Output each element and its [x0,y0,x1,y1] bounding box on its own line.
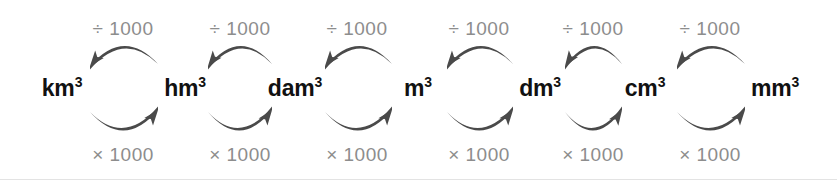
unit-label-m3: m3 [404,75,432,102]
divide-operation-label-5: ÷ 1000 [563,18,624,40]
multiply-operation-label-3: × 1000 [326,144,388,166]
unit-base: m [404,75,424,101]
multiply-operation-label-6: × 1000 [679,144,741,166]
multiply-arrow-hm3-to-dam3 [208,107,277,131]
unit-base: km [42,75,75,101]
unit-label-dm3: dm3 [519,75,561,102]
multiply-operation-label-5: × 1000 [562,144,624,166]
multiply-operation-label-4: × 1000 [448,144,510,166]
divide-operation-label-6: ÷ 1000 [680,18,741,40]
unit-base: mm [751,75,792,101]
unit-exponent: 3 [315,74,323,90]
unit-base: dam [268,75,315,101]
divide-arrow-hm3-to-km3 [85,46,158,69]
divide-arrow-mm3-to-cm3 [672,46,745,69]
divide-operation-label-3: ÷ 1000 [327,18,388,40]
multiply-arrow-km3-to-hm3 [90,107,163,131]
unit-label-mm3: mm3 [751,75,799,102]
unit-label-km3: km3 [42,75,82,102]
divide-operation-label-1: ÷ 1000 [93,18,154,40]
divide-arrow-dm3-to-m3 [442,46,513,69]
unit-label-dam3: dam3 [268,75,322,102]
divide-operation-label-2: ÷ 1000 [210,18,271,40]
divide-arrow-cm3-to-dm3 [560,46,622,69]
multiply-operation-label-2: × 1000 [209,144,271,166]
unit-conversion-diagram: km3hm3dam3m3dm3cm3mm3 ÷ 1000÷ 1000÷ 1000… [0,0,837,180]
divide-arrow-dam3-to-hm3 [203,46,272,69]
unit-exponent: 3 [658,74,666,90]
multiply-arrow-cm3-to-mm3 [677,107,750,131]
unit-exponent: 3 [791,74,799,90]
unit-base: hm [164,75,198,101]
multiply-arrow-m3-to-dm3 [447,107,518,131]
unit-exponent: 3 [75,74,83,90]
unit-exponent: 3 [198,74,206,90]
unit-exponent: 3 [424,74,432,90]
multiply-arrow-dam3-to-m3 [325,107,397,131]
multiply-arrow-dm3-to-cm3 [565,107,627,131]
divide-arrow-m3-to-dam3 [320,46,392,69]
multiply-operation-label-1: × 1000 [92,144,154,166]
unit-base: cm [625,75,658,101]
unit-label-hm3: hm3 [164,75,206,102]
divide-operation-label-4: ÷ 1000 [449,18,510,40]
unit-base: dm [519,75,553,101]
unit-label-cm3: cm3 [625,75,665,102]
unit-exponent: 3 [553,74,561,90]
